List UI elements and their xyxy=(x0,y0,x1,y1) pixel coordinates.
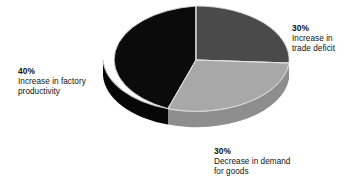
callout-demand-for-goods-percent: 30% xyxy=(214,146,290,157)
callout-factory-productivity-line1: Increase in factory xyxy=(18,77,86,88)
callout-demand-for-goods-line1: Decrease in demand xyxy=(214,157,290,168)
callout-demand-for-goods-line2: for goods xyxy=(214,167,290,178)
callout-trade-deficit-line2: trade deficit xyxy=(292,44,335,55)
callout-factory-productivity-line2: productivity xyxy=(18,87,86,98)
pie-slice-tops xyxy=(114,6,289,111)
callout-trade-deficit-percent: 30% xyxy=(292,23,335,34)
pie-slice-trade-deficit xyxy=(196,6,289,63)
callout-demand-for-goods: 30% Decrease in demand for goods xyxy=(214,146,290,178)
callout-factory-productivity: 40% Increase in factory productivity xyxy=(18,66,86,98)
callout-factory-productivity-percent: 40% xyxy=(18,66,86,77)
callout-trade-deficit-line1: Increase in xyxy=(292,34,335,45)
callout-trade-deficit: 30% Increase in trade deficit xyxy=(292,23,335,55)
pie-chart-figure: 30% Increase in trade deficit 40% Increa… xyxy=(0,0,364,183)
